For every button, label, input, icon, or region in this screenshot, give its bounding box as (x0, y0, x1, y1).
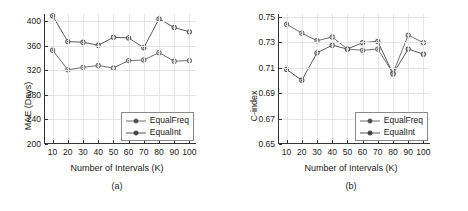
x-tick-label: 100 (182, 148, 196, 157)
gridline-vertical (302, 14, 303, 143)
x-tick-label: 60 (358, 148, 367, 157)
x-tick-label: 50 (343, 148, 352, 157)
x-tick-mark (53, 140, 54, 143)
y-tick-label: 240 (27, 115, 41, 124)
x-tick-mark (83, 140, 84, 143)
x-tick-label: 10 (48, 148, 57, 157)
y-tick-label: 280 (27, 91, 41, 100)
gridline-vertical (347, 14, 348, 143)
x-tick-label: 70 (139, 148, 148, 157)
x-tick-mark (98, 140, 99, 143)
x-tick-label: 20 (63, 148, 72, 157)
gridline-vertical (53, 14, 54, 143)
legend-marker-equalfreq-icon (359, 116, 381, 126)
panel-b-y-axis-label: C-index (249, 90, 259, 121)
legend-item-equalint: EqualInt (359, 127, 423, 138)
legend-label-equalint: EqualInt (384, 128, 415, 137)
panel-a-caption: (a) (0, 181, 234, 191)
y-tick-mark (279, 144, 282, 145)
panel-b-caption: (b) (234, 181, 468, 191)
legend-item-equalint: EqualInt (125, 127, 189, 138)
y-tick-mark (279, 17, 282, 18)
y-tick-mark (45, 95, 48, 96)
y-tick-mark (279, 42, 282, 43)
x-tick-mark (332, 140, 333, 143)
y-tick-label: 320 (27, 66, 41, 75)
x-tick-label: 90 (169, 148, 178, 157)
y-tick-mark (45, 119, 48, 120)
gridline-vertical (98, 14, 99, 143)
x-tick-label: 80 (154, 148, 163, 157)
x-tick-label: 70 (373, 148, 382, 157)
panel-a-legend: EqualFreq EqualInt (121, 112, 194, 141)
x-tick-label: 10 (282, 148, 291, 157)
gridline-vertical (83, 14, 84, 143)
x-tick-label: 40 (93, 148, 102, 157)
y-tick-mark (279, 93, 282, 94)
x-tick-mark (317, 140, 318, 143)
x-tick-mark (113, 140, 114, 143)
panel-b-plot-wrap: 0.650.670.690.710.730.751020304050607080… (278, 14, 430, 144)
y-tick-label: 0.73 (258, 38, 275, 47)
gridline-vertical (317, 14, 318, 143)
panel-a: MAE (Days) 20024028032036040010203040506… (0, 0, 234, 211)
x-tick-label: 30 (312, 148, 321, 157)
y-tick-label: 400 (27, 17, 41, 26)
legend-item-equalfreq: EqualFreq (125, 115, 189, 126)
gridline-vertical (68, 14, 69, 143)
y-tick-label: 0.69 (258, 89, 275, 98)
x-tick-label: 30 (78, 148, 87, 157)
y-tick-label: 360 (27, 42, 41, 51)
series-line-equalfreq (53, 50, 190, 70)
panel-a-plot-wrap: 200240280320360400102030405060708090100 … (44, 14, 196, 144)
panel-a-x-axis-label: Number of Intervals (K) (0, 163, 234, 173)
x-tick-label: 40 (327, 148, 336, 157)
y-tick-label: 0.65 (258, 140, 275, 149)
x-tick-label: 60 (124, 148, 133, 157)
y-tick-mark (279, 68, 282, 69)
legend-marker-equalint-icon (359, 128, 381, 138)
gridline-vertical (287, 14, 288, 143)
panel-b-legend: EqualFreq EqualInt (355, 112, 428, 141)
legend-marker-equalint-icon (125, 128, 147, 138)
y-tick-label: 0.71 (258, 63, 275, 72)
x-tick-mark (68, 140, 69, 143)
y-tick-mark (45, 21, 48, 22)
y-tick-label: 200 (27, 140, 41, 149)
x-tick-label: 80 (388, 148, 397, 157)
figure-container: MAE (Days) 20024028032036040010203040506… (0, 0, 468, 211)
legend-marker-equalfreq-icon (125, 116, 147, 126)
y-tick-label: 0.75 (258, 12, 275, 21)
y-tick-mark (45, 46, 48, 47)
x-tick-mark (287, 140, 288, 143)
y-tick-mark (45, 144, 48, 145)
x-tick-mark (347, 140, 348, 143)
x-tick-label: 100 (416, 148, 430, 157)
x-tick-label: 50 (109, 148, 118, 157)
x-tick-label: 20 (297, 148, 306, 157)
x-tick-mark (302, 140, 303, 143)
panel-b-x-axis-label: Number of Intervals (K) (234, 163, 468, 173)
y-tick-mark (279, 119, 282, 120)
y-tick-mark (45, 70, 48, 71)
legend-item-equalfreq: EqualFreq (359, 115, 423, 126)
legend-label-equalfreq: EqualFreq (384, 116, 423, 125)
x-tick-label: 90 (403, 148, 412, 157)
y-tick-label: 0.67 (258, 114, 275, 123)
series-line-equalfreq (287, 24, 424, 73)
gridline-vertical (113, 14, 114, 143)
legend-label-equalint: EqualInt (150, 128, 181, 137)
panel-b: C-index 0.650.670.690.710.730.7510203040… (234, 0, 468, 211)
legend-label-equalfreq: EqualFreq (150, 116, 189, 125)
gridline-vertical (332, 14, 333, 143)
